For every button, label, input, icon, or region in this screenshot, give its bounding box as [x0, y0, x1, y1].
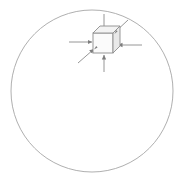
cube-face-front	[93, 33, 113, 53]
arrow-lower-left	[78, 49, 94, 63]
diagram-canvas: Hydrostatic compression of a cubic eleme…	[0, 0, 183, 183]
cubic-element	[93, 26, 120, 53]
boundary-circle	[11, 10, 173, 172]
figure-container: Hydrostatic compression of a cubic eleme…	[0, 0, 183, 183]
